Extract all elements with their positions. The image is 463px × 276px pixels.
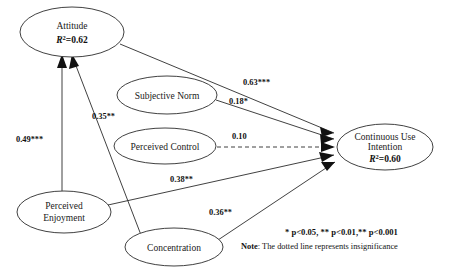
node-attitude[interactable]: Attitude R2=0.62 [20, 7, 124, 57]
node-continuous-use-intention[interactable]: Continuous Use Intention R2=0.60 [337, 124, 433, 170]
path-diagram: Attitude R2=0.62 Subjective Norm Perceiv… [0, 0, 463, 276]
node-cui-label-line1: Continuous Use [355, 132, 416, 142]
node-perceived-enjoyment[interactable]: Perceived Enjoyment [17, 191, 111, 233]
coefficient-perceived-control-to-cui: 0.10 [232, 132, 247, 141]
legend-significance: * p<0.05, ** p<0.01,** p<0.001 [285, 227, 398, 237]
coefficient-concentration-to-attitude: 0.35** [92, 112, 115, 121]
node-perceived-enjoyment-label-line1: Perceived [45, 201, 83, 211]
node-subjective-norm[interactable]: Subjective Norm [117, 76, 217, 114]
legend-note: Note: The dotted line represents insigni… [241, 242, 398, 251]
coefficient-attitude-to-cui: 0.63*** [243, 78, 270, 87]
coefficient-perceived-enjoyment-to-cui: 0.38** [170, 175, 193, 184]
coefficient-perceived-enjoyment-to-attitude: 0.49*** [16, 135, 43, 144]
coefficient-concentration-to-cui: 0.36** [209, 208, 232, 217]
node-subjective-norm-label: Subjective Norm [135, 91, 200, 101]
node-perceived-enjoyment-label-line2: Enjoyment [43, 213, 85, 223]
node-perceived-control-label: Perceived Control [131, 142, 200, 152]
node-concentration[interactable]: Concentration [125, 228, 223, 266]
edge-perceived-enjoyment-to-attitude [57, 54, 67, 191]
coefficient-subjective-norm-to-cui: 0.18* [229, 97, 248, 106]
node-perceived-control[interactable]: Perceived Control [114, 128, 216, 164]
node-cui-label-line2: Intention [368, 142, 403, 152]
edge-perceived-control-to-cui [217, 142, 335, 152]
node-attitude-label: Attitude [56, 21, 87, 31]
node-concentration-label: Concentration [147, 243, 201, 253]
node-attitude-r2: R2=0.62 [55, 34, 88, 46]
node-cui-r2: R2=0.60 [368, 153, 401, 165]
figure-canvas: Attitude R2=0.62 Subjective Norm Perceiv… [0, 0, 463, 276]
